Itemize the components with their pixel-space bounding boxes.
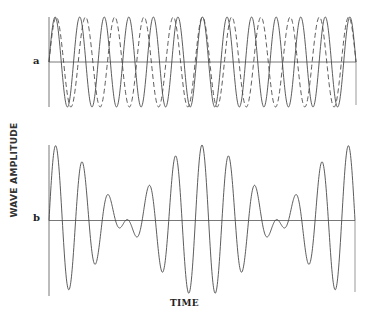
x-axis-label: TIME (0, 298, 369, 308)
y-axis-label: WAVE AMPLITUDE (6, 110, 22, 230)
panel-b (49, 145, 355, 296)
wave-diagram (0, 0, 369, 328)
series-sum (49, 145, 355, 293)
panel-a-label: a (33, 55, 39, 66)
panel-a (49, 17, 356, 107)
panel-b-label: b (33, 212, 40, 223)
y-axis-label-text: WAVE AMPLITUDE (9, 123, 19, 218)
